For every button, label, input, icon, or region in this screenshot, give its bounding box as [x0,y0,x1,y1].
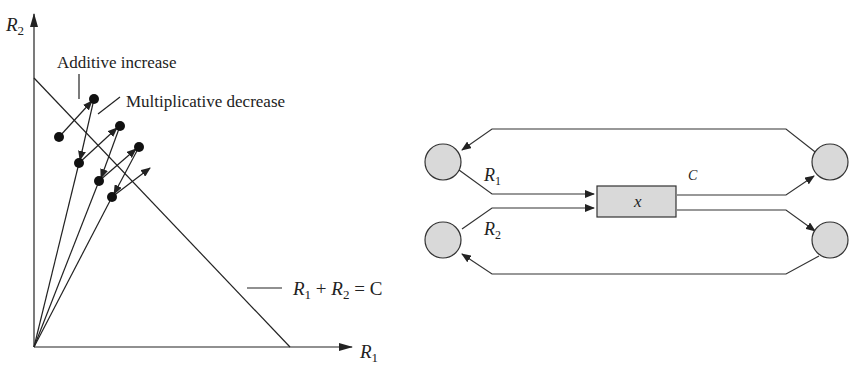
multiplicative-decrease-label: Multiplicative decrease [126,92,285,111]
ray [34,181,99,347]
out-path-2 [677,210,815,231]
sink-node-1 [812,144,848,180]
state-point [54,132,64,142]
source-node-2 [425,222,461,258]
ray [34,197,112,347]
state-point [107,192,117,202]
state-point [74,158,84,168]
flow-path-2 [462,208,594,229]
out-path-1 [677,176,814,195]
flow-path-1 [459,170,594,194]
sink-node-2 [812,222,848,258]
aimd-figure: R2 R1 Additive increase Multiplicative d… [0,0,859,374]
capacity-line [34,78,290,347]
feedback-path-2 [462,254,819,274]
state-point [94,176,104,186]
y-axis-label: R2 [5,14,24,38]
bottleneck-label: x [633,192,642,211]
flow2-label: R2 [483,219,501,242]
capacity-constraint-label: R1 + R2 = C [292,278,382,302]
additive-increase-arrow [99,149,136,181]
state-point [134,142,144,152]
flow1-label: R1 [483,165,501,188]
ray [34,163,79,347]
feedback-path-1 [462,129,819,155]
additive-increase-arrow [112,168,150,197]
multiplicative-leader [98,97,120,114]
additive-increase-label: Additive increase [57,53,176,72]
multiplicative-decrease-arrow [114,147,139,194]
state-point [115,121,125,131]
x-axis-label: R1 [359,341,378,365]
source-node-1 [425,144,461,180]
additive-increase-arrow [79,128,117,163]
state-point [89,94,99,104]
capacity-label: C [688,168,698,183]
